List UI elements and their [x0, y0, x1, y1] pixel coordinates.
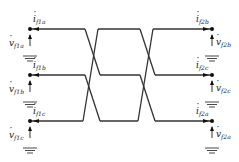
- current-arrow-icon: [203, 27, 209, 31]
- current-arrow-icon: [203, 119, 209, 123]
- ground-icon: [205, 148, 219, 153]
- terminal-dot-left-a: [28, 27, 32, 31]
- label-voltage-f2b: vf2b: [216, 38, 231, 48]
- arrow-up-icon: [28, 34, 32, 39]
- arrow-up-icon: [210, 34, 214, 39]
- terminal-dot-right-a: [210, 119, 214, 123]
- arrow-up-icon: [210, 126, 214, 131]
- crossing2-top-to-mid: [140, 29, 155, 75]
- label-voltage-f2a: vf2a: [216, 130, 231, 140]
- terminal-dot-left-b: [28, 73, 32, 77]
- terminal-dot-right-c: [210, 73, 214, 77]
- label-current-f1b: if1b: [33, 61, 46, 71]
- current-arrow-icon: [33, 119, 39, 123]
- label-voltage-f1c: vf1c: [9, 131, 24, 141]
- crossing1-top-to-mid: [85, 29, 100, 75]
- label-voltage-f2c: vf2c: [216, 84, 231, 94]
- label-current-f2c: if2c: [196, 61, 208, 71]
- ground-icon: [23, 148, 37, 153]
- label-current-f1a: if1a: [33, 15, 46, 25]
- arrow-up-icon: [28, 126, 32, 131]
- label-current-f2b: if2b: [196, 15, 209, 25]
- label-current-f1c: if1c: [33, 107, 45, 117]
- current-arrow-icon: [33, 73, 39, 77]
- label-voltage-f1b: vf1b: [9, 85, 24, 95]
- terminal-dot-right-b: [210, 27, 214, 31]
- current-arrow-icon: [33, 27, 39, 31]
- terminal-dot-left-c: [28, 119, 32, 123]
- label-voltage-f1a: vf1a: [9, 39, 24, 49]
- arrow-up-icon: [28, 80, 32, 85]
- label-current-f2a: if2a: [196, 107, 209, 117]
- current-arrow-icon: [203, 73, 209, 77]
- arrow-up-icon: [210, 80, 214, 85]
